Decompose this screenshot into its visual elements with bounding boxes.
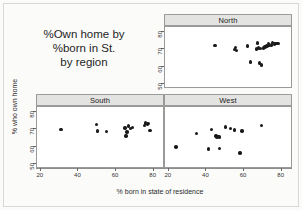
chart-title-line-2: %born in St. bbox=[14, 41, 154, 55]
x-axis-tick-label: 20 bbox=[36, 172, 43, 178]
chart-title: %Own home by %born in St. by region bbox=[14, 27, 154, 69]
data-point bbox=[146, 122, 149, 125]
x-axis-tick bbox=[40, 168, 41, 171]
panel-south-plot bbox=[36, 106, 164, 168]
y-axis-south: 50607080 bbox=[22, 94, 36, 168]
x-axis-tick-label: 60 bbox=[112, 172, 119, 178]
data-point bbox=[195, 132, 198, 135]
x-axis-label: % born in state of residence bbox=[35, 188, 285, 195]
data-point bbox=[174, 145, 177, 148]
x-axis-tick-label: 60 bbox=[240, 172, 247, 178]
data-point bbox=[235, 49, 238, 52]
chart-title-line-3: by region bbox=[14, 55, 154, 69]
data-point bbox=[125, 130, 128, 133]
data-point bbox=[246, 44, 249, 47]
x-axis-line bbox=[36, 168, 164, 169]
data-point bbox=[276, 42, 279, 45]
x-axis-tick bbox=[115, 168, 116, 171]
y-axis-label: % who own home bbox=[11, 62, 18, 152]
x-axis-tick bbox=[205, 168, 206, 171]
x-axis-tick bbox=[153, 168, 154, 171]
panel-west-label: West bbox=[219, 96, 236, 105]
data-point bbox=[105, 130, 108, 133]
x-axis-west: 20406080 bbox=[164, 168, 292, 182]
data-point bbox=[224, 125, 227, 128]
x-axis-tick-label: 40 bbox=[202, 172, 209, 178]
y-axis-tick-label: 80 bbox=[29, 111, 35, 118]
data-point bbox=[218, 147, 221, 150]
x-axis-tick bbox=[243, 168, 244, 171]
panel-north-label: North bbox=[219, 16, 238, 25]
data-point bbox=[260, 124, 263, 127]
panel-south: South bbox=[36, 94, 164, 168]
y-axis-north: 50607080 bbox=[150, 14, 164, 88]
y-axis-tick-label: 60 bbox=[157, 66, 163, 73]
data-point bbox=[213, 44, 216, 47]
panel-north-strip: North bbox=[164, 14, 292, 26]
x-axis-tick-label: 40 bbox=[74, 172, 81, 178]
data-point bbox=[238, 151, 241, 154]
data-point bbox=[249, 60, 252, 63]
data-point bbox=[131, 126, 134, 129]
x-axis-tick bbox=[77, 168, 78, 171]
data-point bbox=[218, 135, 221, 138]
data-point bbox=[229, 127, 232, 130]
x-axis-line bbox=[164, 168, 292, 169]
data-point bbox=[96, 129, 99, 132]
x-axis-tick bbox=[168, 168, 169, 171]
y-axis-tick-label: 60 bbox=[29, 146, 35, 153]
x-axis-tick bbox=[281, 168, 282, 171]
data-point bbox=[95, 123, 98, 126]
panel-north-plot bbox=[164, 26, 292, 88]
data-point bbox=[240, 129, 243, 132]
x-axis-south: 20406080 bbox=[36, 168, 164, 182]
x-axis-tick-label: 80 bbox=[149, 172, 156, 178]
x-axis-tick-label: 80 bbox=[277, 172, 284, 178]
y-axis-tick-label: 70 bbox=[157, 48, 163, 55]
data-point bbox=[207, 147, 210, 150]
y-axis-tick-label: 50 bbox=[157, 83, 163, 90]
data-point bbox=[148, 129, 151, 132]
panel-west-strip: West bbox=[164, 94, 292, 106]
y-axis-tick-label: 70 bbox=[29, 128, 35, 135]
chart-figure: %Own home by %born in St. by region % wh… bbox=[0, 0, 302, 210]
data-point bbox=[233, 128, 236, 131]
x-axis-tick-label: 20 bbox=[164, 172, 171, 178]
chart-title-line-1: %Own home by bbox=[14, 27, 154, 41]
panel-south-strip: South bbox=[36, 94, 164, 106]
data-point bbox=[210, 128, 213, 131]
panel-west: West bbox=[164, 94, 292, 168]
panel-south-label: South bbox=[90, 96, 110, 105]
panel-north: North bbox=[164, 14, 292, 88]
y-axis-tick-label: 50 bbox=[29, 163, 35, 170]
data-point bbox=[59, 128, 62, 131]
panel-west-plot bbox=[164, 106, 292, 168]
data-point bbox=[124, 134, 127, 137]
data-point bbox=[260, 63, 263, 66]
y-axis-tick-label: 80 bbox=[157, 31, 163, 38]
data-point bbox=[256, 41, 259, 44]
